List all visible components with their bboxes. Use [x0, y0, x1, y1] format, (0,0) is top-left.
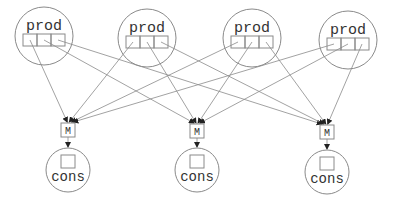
- consumer-label: cons: [310, 171, 344, 187]
- merge-label: M: [324, 128, 330, 139]
- nodes: prodprodprodprodMMMconsconscons: [15, 7, 377, 194]
- producer-label: prod: [330, 22, 366, 39]
- producer-circle: [319, 11, 377, 69]
- merge-label: M: [194, 127, 200, 138]
- consumer-node: cons: [46, 148, 90, 192]
- edge-slot-to-merge: [200, 44, 348, 123]
- producer-circle: [118, 9, 176, 67]
- consumer-label: cons: [51, 169, 85, 185]
- merge-label: M: [65, 126, 71, 137]
- merge-node: M: [190, 124, 204, 138]
- producer-node: prod: [319, 11, 377, 69]
- producer-label: prod: [26, 18, 62, 35]
- merge-node: M: [61, 123, 75, 137]
- producer-label: prod: [234, 20, 270, 37]
- producer-node: prod: [118, 9, 176, 67]
- consumer-slot: [190, 155, 204, 168]
- edge-slot-to-merge: [44, 40, 194, 123]
- consumer-node: cons: [175, 148, 219, 192]
- producer-node: prod: [223, 9, 281, 67]
- merge-node: M: [320, 125, 334, 139]
- edge-slot-to-merge: [30, 40, 67, 122]
- consumer-slot: [320, 157, 334, 170]
- producer-circle: [15, 7, 73, 65]
- producer-label: prod: [129, 20, 165, 37]
- consumer-label: cons: [180, 169, 214, 185]
- producer-node: prod: [15, 7, 73, 65]
- producer-circle: [223, 9, 281, 67]
- consumer-node: cons: [305, 150, 349, 194]
- edge-slot-to-merge: [328, 44, 362, 124]
- diagram-canvas: prodprodprodprodMMMconsconscons: [0, 0, 396, 202]
- consumer-slot: [61, 155, 75, 168]
- edge-slot-to-merge: [58, 40, 322, 124]
- edge-slot-to-merge: [73, 44, 334, 122]
